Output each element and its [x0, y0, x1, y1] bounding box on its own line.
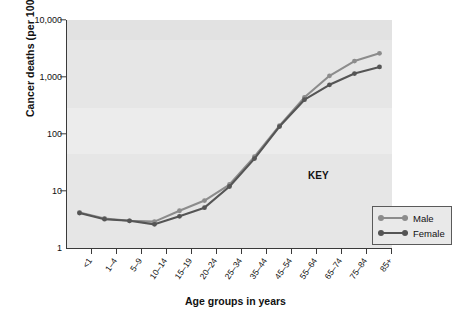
- legend-swatch-female: [378, 229, 408, 238]
- y-tick-label-2: 100: [0, 129, 62, 139]
- data-point-male-10: [327, 73, 332, 78]
- legend-box: Male Female: [372, 206, 452, 245]
- data-point-female-12: [377, 65, 382, 70]
- legend-swatch-male: [378, 214, 408, 223]
- series-line-male: [80, 53, 380, 221]
- data-point-female-1: [102, 217, 107, 222]
- data-point-female-11: [352, 71, 357, 76]
- plot-area: Male Female: [66, 20, 392, 249]
- data-point-male-12: [377, 51, 382, 56]
- data-point-female-0: [77, 211, 82, 216]
- legend-entry-male: Male: [378, 211, 434, 225]
- y-tick-label-3: 10: [0, 186, 62, 196]
- x-axis-title: Age groups in years: [60, 295, 411, 307]
- legend-label-male: Male: [413, 213, 434, 224]
- data-point-female-2: [127, 218, 132, 223]
- data-point-female-7: [252, 156, 257, 161]
- data-point-female-9: [302, 97, 307, 102]
- y-axis-title-wrapper: Cancer deaths (per 100,000): [0, 0, 26, 250]
- y-tick-label-0: 10,000: [0, 15, 62, 25]
- data-point-female-6: [227, 184, 232, 189]
- data-point-female-3: [152, 222, 157, 227]
- legend-label-female: Female: [413, 228, 445, 239]
- data-point-female-8: [277, 124, 282, 129]
- data-point-female-10: [327, 82, 332, 87]
- data-point-male-11: [352, 59, 357, 64]
- y-tick-label-1: 1,000: [0, 72, 62, 82]
- data-point-male-4: [177, 208, 182, 213]
- series-line-female: [80, 67, 380, 224]
- data-point-male-5: [202, 198, 207, 203]
- legend-entry-female: Female: [378, 226, 445, 240]
- x-tick-label-0: <1: [86, 248, 100, 262]
- data-point-female-5: [202, 205, 207, 210]
- y-tick-label-4: 1: [0, 243, 62, 253]
- legend-title: KEY: [306, 170, 331, 181]
- series-lines: [67, 20, 392, 248]
- data-point-female-4: [177, 214, 182, 219]
